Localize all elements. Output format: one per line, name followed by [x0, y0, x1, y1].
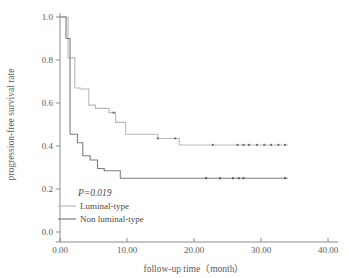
- censor-mark: [219, 177, 221, 179]
- censor-mark: [205, 177, 207, 179]
- survival-curve-non-luminal: [60, 17, 288, 178]
- x-axis-title: follow-up time（month）: [143, 263, 244, 274]
- censor-mark: [284, 177, 286, 179]
- y-tick-label-4: 0.8: [42, 55, 54, 65]
- y-tick-label-0: 0.0: [42, 227, 54, 237]
- y-tick-label-5: 1.0: [42, 12, 54, 22]
- y-tick-label-1: 0.2: [42, 184, 53, 194]
- p-value-annotation: P=0.019: [77, 188, 112, 198]
- censor-mark: [242, 177, 244, 179]
- x-tick-label-3: 30.00: [251, 245, 272, 255]
- censor-mark: [157, 137, 159, 139]
- y-axis-title: progression-free survival rate: [6, 69, 16, 181]
- censor-mark: [263, 144, 265, 146]
- censor-mark: [284, 144, 286, 146]
- legend-label-0: Luminal-type: [80, 201, 129, 211]
- censor-mark: [174, 137, 176, 139]
- censor-mark: [277, 144, 279, 146]
- survival-plot: 0.00.20.40.60.81.00.0010.0020.0030.0040.…: [0, 0, 349, 278]
- x-tick-label-1: 10.00: [117, 245, 138, 255]
- x-tick-label-2: 20.00: [184, 245, 205, 255]
- censor-mark: [232, 177, 234, 179]
- censor-mark: [112, 112, 114, 114]
- survival-curve-luminal: [60, 17, 288, 145]
- y-tick-label-2: 0.4: [42, 141, 54, 151]
- censor-mark: [236, 144, 238, 146]
- kaplan-meier-figure: 0.00.20.40.60.81.00.0010.0020.0030.0040.…: [0, 0, 349, 278]
- censor-mark: [270, 144, 272, 146]
- censor-mark: [248, 144, 250, 146]
- x-tick-label-0: 0.00: [52, 245, 68, 255]
- curves-group: [60, 17, 288, 178]
- censor-mark: [242, 144, 244, 146]
- legend-label-1: Non luminal-type: [80, 214, 144, 224]
- censor-mark: [212, 144, 214, 146]
- censor-mark: [256, 144, 258, 146]
- legend-group: P=0.019Luminal-typeNon luminal-type: [58, 188, 144, 224]
- y-tick-label-3: 0.6: [42, 98, 54, 108]
- censor-mark: [238, 177, 240, 179]
- x-tick-label-4: 40.00: [318, 245, 339, 255]
